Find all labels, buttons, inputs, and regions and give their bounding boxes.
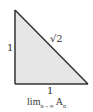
- caption: limn→∞ An: [0, 96, 93, 109]
- caption-term-subscript: n: [63, 103, 66, 109]
- caption-term: A: [56, 96, 63, 107]
- triangle-diagram: 1 1 √2: [0, 0, 93, 96]
- caption-lim: lim: [27, 96, 40, 107]
- hypotenuse-label: √2: [50, 33, 63, 44]
- left-side-label: 1: [7, 42, 13, 53]
- caption-lim-subscript: n→∞: [40, 103, 53, 109]
- bottom-side-label: 1: [47, 85, 53, 96]
